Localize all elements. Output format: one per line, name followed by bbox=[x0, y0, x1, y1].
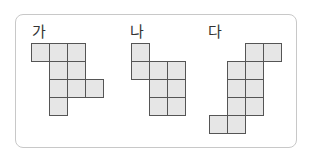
net-cell bbox=[227, 79, 246, 98]
net-cell bbox=[167, 61, 186, 80]
net-cell bbox=[67, 43, 86, 62]
net-cell bbox=[227, 115, 246, 134]
net-cell bbox=[49, 79, 68, 98]
net-cell bbox=[227, 61, 246, 80]
net-cell bbox=[131, 61, 150, 80]
figure-label: 가 bbox=[32, 25, 46, 40]
net-cell bbox=[31, 43, 50, 62]
figure-label: 나 bbox=[130, 25, 144, 40]
net-cell bbox=[149, 79, 168, 98]
net-cell bbox=[245, 43, 264, 62]
net-cell bbox=[149, 97, 168, 116]
net-cell bbox=[245, 79, 264, 98]
net-cell bbox=[149, 61, 168, 80]
net-cell bbox=[209, 115, 228, 134]
net-cell bbox=[49, 43, 68, 62]
net-cell bbox=[263, 43, 282, 62]
net-cell bbox=[85, 79, 104, 98]
net-cell bbox=[49, 61, 68, 80]
net-cell bbox=[131, 43, 150, 62]
net-cell bbox=[67, 61, 86, 80]
net-cell bbox=[49, 97, 68, 116]
net-cell bbox=[67, 79, 86, 98]
net-cell bbox=[245, 97, 264, 116]
net-cell bbox=[245, 61, 264, 80]
net-cell bbox=[167, 79, 186, 98]
figure-label: 다 bbox=[208, 25, 222, 40]
net-cell bbox=[167, 97, 186, 116]
net-cell bbox=[227, 97, 246, 116]
